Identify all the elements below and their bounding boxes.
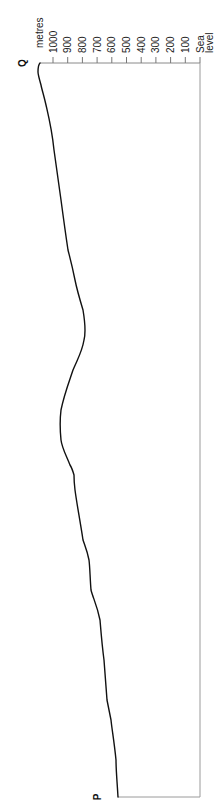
axis-tick-label: 600 xyxy=(106,36,117,53)
axis-ticks xyxy=(53,57,200,63)
axis-tick-label: 200 xyxy=(165,36,176,53)
elevation-profile-line xyxy=(38,63,118,797)
unit-label: metres xyxy=(34,17,45,48)
cross-section-profile: 1000900800700600500400300200100Sealevel … xyxy=(0,0,219,805)
axis-tick-label-line2: level xyxy=(204,32,215,53)
axis-tick-label: 100 xyxy=(180,36,191,53)
axis-tick-label: 1000 xyxy=(48,30,59,53)
axis-tick-label: 900 xyxy=(62,36,73,53)
axis-tick-label: 500 xyxy=(121,36,132,53)
axis-tick-label: 300 xyxy=(150,36,161,53)
axis-tick-label: 700 xyxy=(92,36,103,53)
label-q: Q xyxy=(17,59,28,67)
axis-tick-labels: 1000900800700600500400300200100Sealevel xyxy=(48,30,216,53)
axis-tick-label: 400 xyxy=(136,36,147,53)
axis-tick-label: 800 xyxy=(77,36,88,53)
label-p: P xyxy=(92,793,103,800)
